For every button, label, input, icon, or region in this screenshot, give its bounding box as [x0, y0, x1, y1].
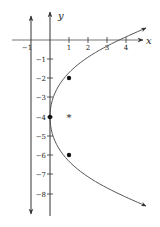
svg-text:2: 2	[86, 44, 90, 52]
svg-text:−1: −1	[22, 44, 32, 52]
svg-text:−1: −1	[36, 56, 46, 64]
y-axis-label: y	[57, 10, 64, 21]
x-tick-labels: −1 1 2 3 4	[22, 44, 129, 52]
point-1-neg6	[67, 153, 71, 157]
parabola-curve-line	[50, 28, 146, 206]
svg-text:−8: −8	[36, 191, 46, 199]
svg-text:4: 4	[124, 44, 129, 52]
svg-text:−6: −6	[36, 152, 47, 160]
y-tick-labels: −1 −2 −3 −4 −5 −6 −7 −8	[36, 56, 47, 199]
parabola-chart: x y −1 1 2 3 4 −1 −2 −3 −4 −5 −6 −7 −8	[0, 0, 160, 227]
svg-text:1: 1	[67, 44, 71, 52]
svg-text:−7: −7	[36, 171, 46, 179]
parabola-curve	[50, 8, 145, 226]
svg-text:−5: −5	[36, 133, 46, 141]
point-1-neg2	[67, 76, 71, 80]
vertex-point	[48, 115, 52, 119]
focus-asterisk-icon: *	[67, 112, 72, 123]
svg-text:−3: −3	[36, 94, 46, 102]
svg-text:−4: −4	[36, 114, 47, 122]
x-axis-label: x	[146, 35, 152, 46]
svg-text:−2: −2	[36, 75, 46, 83]
